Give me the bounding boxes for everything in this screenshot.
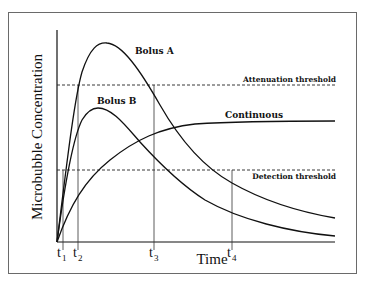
x-axis-title: Time [196, 251, 227, 267]
bolus-a-curve [57, 43, 335, 242]
tick-t1: t 1 [57, 245, 67, 263]
continuous-label: Continuous [225, 110, 283, 120]
y-axis-title: Microbubble Concentration [29, 53, 45, 220]
detection-threshold-label: Detection threshold [252, 172, 337, 181]
svg-text:t: t [227, 245, 231, 260]
svg-text:2: 2 [78, 253, 83, 263]
attenuation-threshold-label: Attenuation threshold [242, 75, 337, 84]
svg-text:3: 3 [154, 253, 159, 263]
continuous-curve [57, 121, 335, 242]
svg-text:t: t [73, 245, 77, 260]
concentration-time-chart: Bolus A Bolus B Continuous Attenuation t… [0, 0, 365, 282]
svg-text:t: t [57, 245, 61, 260]
svg-text:t: t [149, 245, 153, 260]
svg-text:1: 1 [62, 253, 67, 263]
bolus-a-label: Bolus A [135, 46, 175, 56]
bolus-b-label: Bolus B [97, 96, 137, 106]
svg-text:4: 4 [232, 253, 237, 263]
